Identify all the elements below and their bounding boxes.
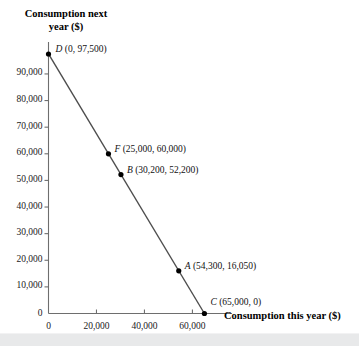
y-axis-tick-label: 30,000 <box>2 227 43 237</box>
x-axis-title: Consumption this year ($) <box>224 310 341 321</box>
x-axis-tick-label: 0 <box>24 321 74 331</box>
point-coordinates: (0, 97,500) <box>62 44 106 54</box>
x-axis-tick-label: 20,000 <box>71 321 121 331</box>
data-point-label-b: B (30,200, 52,200) <box>127 165 199 175</box>
y-axis-tick-label: 60,000 <box>2 147 43 157</box>
page-bottom-band <box>0 334 359 346</box>
data-point-marker <box>118 172 123 177</box>
x-axis-tick-label: 40,000 <box>119 321 169 331</box>
data-point-marker <box>202 311 207 316</box>
y-axis-tick-label: 70,000 <box>2 121 43 131</box>
y-axis-tick-label: 50,000 <box>2 174 43 184</box>
data-point-marker <box>46 51 51 56</box>
x-axis-tick-label: 60,000 <box>167 321 217 331</box>
data-point-label-a: A (54,300, 16,050) <box>185 261 257 271</box>
y-axis-tick-label: 80,000 <box>2 94 43 104</box>
y-axis-tick-label: 40,000 <box>2 201 43 211</box>
point-coordinates: (30,200, 52,200) <box>133 165 199 175</box>
y-axis-tick-label: 0 <box>5 308 43 318</box>
figure-container: and the or. Consumption next year ($) Co… <box>0 0 359 346</box>
point-coordinates: (54,300, 16,050) <box>191 261 257 271</box>
point-coordinates: (25,000, 60,000) <box>120 144 186 154</box>
data-point-marker <box>106 151 111 156</box>
budget-line <box>49 54 205 314</box>
y-axis-tick-label: 10,000 <box>2 280 43 290</box>
point-coordinates: (65,000, 0) <box>217 297 261 307</box>
y-axis-tick-label: 90,000 <box>2 67 43 77</box>
data-point-label-d: D (0, 97,500) <box>56 44 107 54</box>
data-point-marker <box>176 268 181 273</box>
x-axis-title-text: Consumption this year ($) <box>224 310 341 321</box>
y-axis-tick-label: 20,000 <box>2 254 43 264</box>
data-point-label-f: F (25,000, 60,000) <box>114 144 186 154</box>
data-point-label-c: C (65,000, 0) <box>210 297 261 307</box>
